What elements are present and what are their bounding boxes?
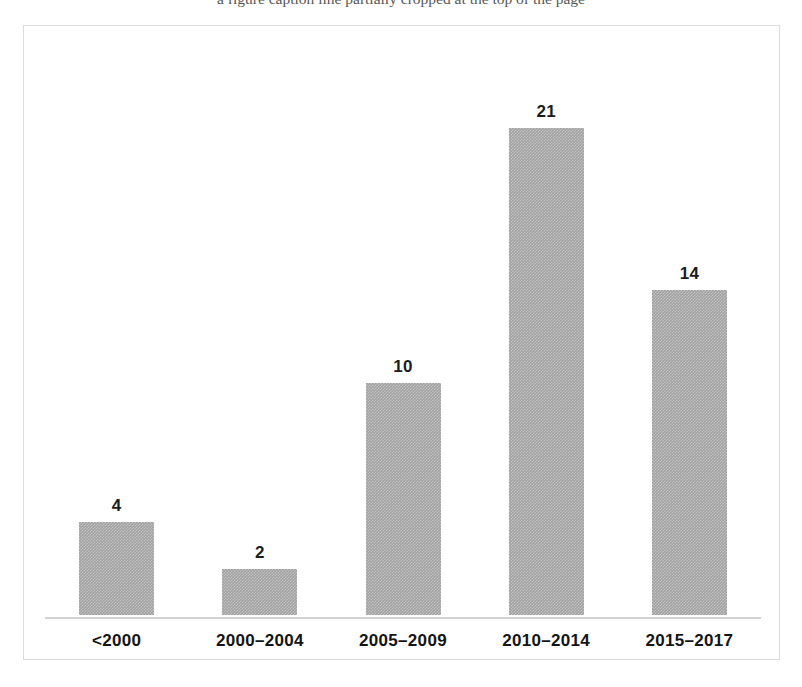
plot-area: 4<200022000–2004102005–2009212010–201414… xyxy=(24,26,779,659)
bar-value-label: 14 xyxy=(652,264,727,284)
x-axis-category-label: 2010–2014 xyxy=(483,631,610,651)
bar[interactable] xyxy=(79,522,154,615)
bar-group: 142015–2017 xyxy=(652,26,727,659)
bar-group: 22000–2004 xyxy=(222,26,297,659)
bar-group: 4<2000 xyxy=(79,26,154,659)
x-axis-category-label: 2015–2017 xyxy=(626,631,753,651)
bar-value-label: 10 xyxy=(366,357,441,377)
cropped-caption-line: a figure caption line partially cropped … xyxy=(0,0,802,9)
cropped-caption-text: a figure caption line partially cropped … xyxy=(21,0,781,9)
bar-value-label: 2 xyxy=(222,543,297,563)
bar[interactable] xyxy=(366,383,441,615)
x-axis-category-label: <2000 xyxy=(53,631,180,651)
bar[interactable] xyxy=(222,569,297,615)
bar[interactable] xyxy=(509,128,584,615)
x-axis-category-label: 2000–2004 xyxy=(196,631,323,651)
bar[interactable] xyxy=(652,290,727,615)
bar-value-label: 4 xyxy=(79,496,154,516)
bar-group: 102005–2009 xyxy=(366,26,441,659)
x-axis-category-label: 2005–2009 xyxy=(340,631,467,651)
bar-group: 212010–2014 xyxy=(509,26,584,659)
chart-frame: 4<200022000–2004102005–2009212010–201414… xyxy=(23,25,780,660)
bar-value-label: 21 xyxy=(509,102,584,122)
